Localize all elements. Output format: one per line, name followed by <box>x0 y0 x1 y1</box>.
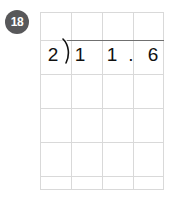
problem-number-badge: 18 <box>5 10 29 34</box>
grid-line-horizontal <box>40 12 164 13</box>
grid-line-vertical <box>133 12 134 190</box>
answer-grid <box>40 12 164 190</box>
grid-line-horizontal <box>40 74 164 75</box>
grid-line-horizontal <box>40 189 164 190</box>
grid-line-horizontal <box>40 108 164 109</box>
grid-line-vertical <box>40 12 41 190</box>
grid-line-horizontal <box>40 176 164 177</box>
grid-line-vertical <box>71 12 72 190</box>
worksheet-problem-canvas: 18 2 1 1 . 6 <box>0 0 170 197</box>
grid-line-horizontal <box>40 142 164 143</box>
grid-line-horizontal <box>40 40 164 41</box>
grid-line-vertical <box>163 12 164 190</box>
grid-line-vertical <box>102 12 103 190</box>
